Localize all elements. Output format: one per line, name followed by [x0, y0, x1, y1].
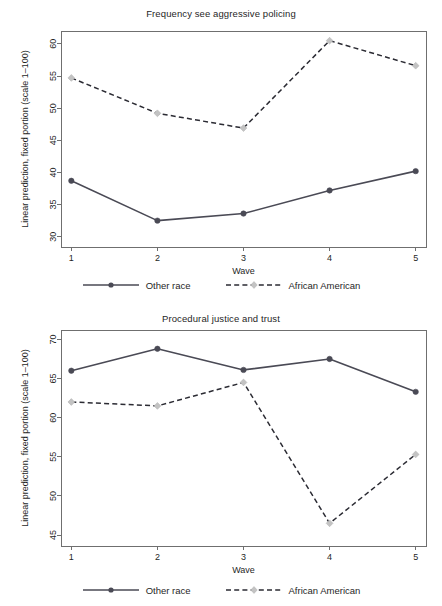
data-point-marker[interactable]: [241, 211, 246, 216]
legend-label-african-american: African American: [289, 280, 361, 291]
x-axis-title: Wave: [232, 565, 255, 575]
legend-entry-african-american[interactable]: African American: [225, 584, 361, 596]
y-tick-label: 55: [48, 71, 58, 81]
legend-entry-other-race[interactable]: Other race: [82, 584, 191, 596]
legend-label-other-race: Other race: [146, 585, 191, 596]
series-line-african-american: [71, 41, 415, 128]
chart-panel-frequency-aggressive-policing: Frequency see aggressive policing 303540…: [0, 0, 442, 305]
x-tick-label: 5: [413, 253, 418, 263]
y-axis-title: Linear prediction, fixed portion (scale …: [20, 349, 30, 527]
data-point-marker[interactable]: [240, 379, 247, 386]
chart-svg-top: 30354045505560Linear prediction, fixed p…: [0, 0, 442, 305]
panel-title-top: Frequency see aggressive policing: [0, 8, 442, 19]
y-tick-label: 55: [48, 452, 58, 462]
data-point-marker[interactable]: [69, 178, 74, 183]
legend-entry-african-american[interactable]: African American: [225, 279, 361, 291]
figure-root: Frequency see aggressive policing 303540…: [0, 0, 442, 606]
x-tick-label: 1: [69, 552, 74, 562]
y-tick-label: 35: [48, 200, 58, 210]
legend-top: Other race African American: [0, 279, 442, 291]
data-point-marker[interactable]: [327, 188, 332, 193]
x-tick-label: 5: [413, 552, 418, 562]
chart-svg-bottom: 455055606570Linear prediction, fixed por…: [0, 305, 442, 606]
x-tick-label: 4: [327, 253, 332, 263]
y-tick-label: 40: [48, 167, 58, 177]
legend-swatch-solid-circle: [82, 279, 140, 291]
y-tick-label: 65: [48, 374, 58, 384]
chart-panel-procedural-justice-trust: Procedural justice and trust 45505560657…: [0, 305, 442, 606]
x-axis-title: Wave: [232, 266, 255, 276]
x-tick-label: 2: [155, 552, 160, 562]
y-tick-label: 45: [48, 530, 58, 540]
panel-title-bottom: Procedural justice and trust: [0, 313, 442, 324]
data-point-marker[interactable]: [413, 389, 418, 394]
data-point-marker[interactable]: [412, 62, 419, 69]
legend-swatch-dashed-diamond: [225, 584, 283, 596]
data-point-marker[interactable]: [154, 110, 161, 117]
x-tick-label: 3: [241, 253, 246, 263]
data-point-marker[interactable]: [155, 346, 160, 351]
x-tick-label: 2: [155, 253, 160, 263]
legend-label-other-race: Other race: [146, 280, 191, 291]
data-point-marker[interactable]: [68, 75, 75, 82]
data-point-marker[interactable]: [241, 367, 246, 372]
x-tick-label: 1: [69, 253, 74, 263]
y-tick-label: 70: [48, 334, 58, 344]
series-line-african-american: [71, 382, 415, 523]
y-tick-label: 50: [48, 491, 58, 501]
y-tick-label: 60: [48, 413, 58, 423]
data-point-marker[interactable]: [155, 218, 160, 223]
data-point-marker[interactable]: [68, 399, 75, 406]
data-point-marker[interactable]: [154, 403, 161, 410]
legend-swatch-dashed-diamond: [225, 279, 283, 291]
y-axis-title: Linear prediction, fixed portion (scale …: [20, 50, 30, 228]
x-tick-label: 4: [327, 552, 332, 562]
data-point-marker[interactable]: [327, 356, 332, 361]
legend-bottom: Other race African American: [0, 584, 442, 596]
y-tick-label: 30: [48, 232, 58, 242]
data-point-marker[interactable]: [69, 368, 74, 373]
legend-swatch-solid-circle: [82, 584, 140, 596]
x-tick-label: 3: [241, 552, 246, 562]
plot-frame: [61, 330, 426, 546]
y-tick-label: 60: [48, 39, 58, 49]
legend-label-african-american: African American: [289, 585, 361, 596]
y-tick-label: 45: [48, 135, 58, 145]
data-point-marker[interactable]: [413, 168, 418, 173]
legend-entry-other-race[interactable]: Other race: [82, 279, 191, 291]
data-point-marker[interactable]: [326, 520, 333, 527]
y-tick-label: 50: [48, 103, 58, 113]
